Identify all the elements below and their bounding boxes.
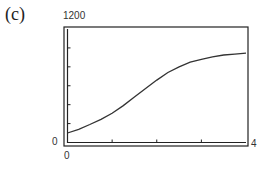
axis-ticks	[68, 48, 202, 143]
data-curve	[68, 53, 247, 133]
chart-plot	[0, 0, 259, 174]
plot-frame	[64, 27, 248, 146]
